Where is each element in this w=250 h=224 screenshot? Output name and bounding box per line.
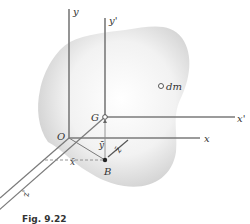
- mass-element-label: dm: [166, 81, 182, 92]
- mass-element-point: [159, 84, 164, 89]
- point-b-label: B: [103, 166, 111, 177]
- point-b: [103, 158, 107, 162]
- centroid-label: G: [91, 112, 99, 123]
- y-bar-label: ȳ: [98, 140, 105, 150]
- x-axis-label: x: [204, 133, 210, 144]
- z-axis: [0, 138, 69, 198]
- figure-caption: Fig. 9.22: [22, 214, 66, 224]
- z-prime-axis-label: z': [21, 190, 31, 198]
- origin-label: O: [57, 131, 65, 142]
- y-axis-label: y: [72, 6, 79, 17]
- x-bar-label: x̄: [70, 157, 75, 167]
- y-prime-axis-label: y': [108, 15, 117, 26]
- centroid-point: [103, 115, 108, 120]
- x-prime-axis-label: x': [237, 113, 245, 124]
- rigid-body-shape: [38, 26, 189, 186]
- rigid-body-diagram: y y' x' x z' x̄ ȳ z̄ G O B dm Fig. 9.22: [0, 0, 250, 224]
